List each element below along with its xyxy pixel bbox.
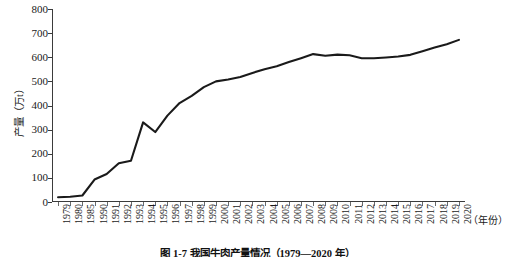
x-axis-tick-1996: 1996: [171, 204, 181, 224]
y-tick-mark: [48, 106, 52, 107]
x-axis-tick-2003: 2003: [256, 204, 266, 224]
y-axis-tick-700: 700: [14, 28, 48, 39]
y-axis-tick-300: 300: [14, 124, 48, 135]
x-axis-tick-2006: 2006: [293, 204, 303, 224]
x-axis-tick-2005: 2005: [281, 204, 291, 224]
y-tick-mark: [48, 130, 52, 131]
x-axis-tick-1992: 1992: [123, 204, 133, 224]
x-axis-tick-2019: 2019: [451, 204, 461, 224]
x-axis-tick-1998: 1998: [196, 204, 206, 224]
x-axis-tick-1997: 1997: [184, 204, 194, 224]
x-axis-tick-1993: 1993: [135, 204, 145, 224]
x-axis-tick-2018: 2018: [439, 204, 449, 224]
y-tick-mark: [48, 57, 52, 58]
figure-caption: 图 1-7 我国牛肉产量情况（1979—2020 年）: [0, 245, 515, 257]
x-axis-tick-2000: 2000: [220, 204, 230, 224]
y-axis-tick-labels: 8007006005004003002001000: [12, 0, 48, 257]
x-axis-tick-2001: 2001: [232, 204, 242, 224]
x-axis-tick-2013: 2013: [378, 204, 388, 224]
y-axis-tick-500: 500: [14, 76, 48, 87]
x-axis-tick-1990: 1990: [99, 204, 109, 224]
x-axis-tick-2008: 2008: [317, 204, 327, 224]
y-axis-tick-100: 100: [14, 172, 48, 183]
plot-area: [52, 9, 465, 202]
x-axis-tick-1979: 1979: [62, 204, 72, 224]
y-tick-mark: [48, 81, 52, 82]
y-tick-mark: [48, 33, 52, 34]
y-axis-tick-600: 600: [14, 52, 48, 63]
x-axis-tick-2004: 2004: [269, 204, 279, 224]
y-tick-mark: [48, 178, 52, 179]
x-axis-tick-2017: 2017: [426, 204, 436, 224]
x-axis-tick-labels: 1979198019851990199119921993199419951996…: [52, 202, 465, 242]
y-tick-mark: [48, 154, 52, 155]
x-axis-tick-2016: 2016: [414, 204, 424, 224]
x-axis-tick-1980: 1980: [74, 204, 84, 224]
x-axis-tick-1991: 1991: [111, 204, 121, 224]
x-axis-tick-2011: 2011: [354, 204, 364, 224]
x-axis-tick-2015: 2015: [402, 204, 412, 224]
x-axis-tick-2010: 2010: [341, 204, 351, 224]
x-axis-tick-1994: 1994: [147, 204, 157, 224]
y-axis-tick-200: 200: [14, 148, 48, 159]
x-axis-tick-2014: 2014: [390, 204, 400, 224]
x-axis-tick-1995: 1995: [159, 204, 169, 224]
x-axis-tick-2007: 2007: [305, 204, 315, 224]
figure-beef-production-chart: 产量（万t） 8007006005004003002001000 1979198…: [0, 0, 515, 257]
x-axis-tick-1999: 1999: [208, 204, 218, 224]
y-axis-tick-0: 0: [14, 197, 48, 208]
x-axis-tick-1985: 1985: [86, 204, 96, 224]
y-axis-tick-400: 400: [14, 100, 48, 111]
y-tick-mark: [48, 9, 52, 10]
x-axis-unit-label: （年份）: [468, 212, 508, 227]
y-axis-tick-800: 800: [14, 4, 48, 15]
x-axis-tick-2002: 2002: [244, 204, 254, 224]
x-axis-tick-2009: 2009: [329, 204, 339, 224]
data-series-line: [52, 9, 465, 202]
x-axis-tick-2012: 2012: [366, 204, 376, 224]
